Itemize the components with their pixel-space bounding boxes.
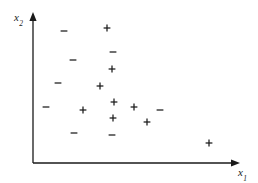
plus-marker (144, 119, 151, 126)
data-markers-group (43, 25, 213, 147)
y-axis-arrowhead-icon (29, 12, 36, 21)
x-axis-label-subscript: 1 (243, 174, 247, 183)
scatter-plot-figure: x2 x1 (0, 0, 258, 183)
plus-marker (131, 104, 138, 111)
plus-marker (80, 107, 87, 114)
plot-canvas (0, 0, 258, 183)
x-axis-label: x1 (238, 167, 247, 181)
plus-marker (104, 25, 111, 32)
plus-marker (97, 83, 104, 90)
plus-marker (110, 115, 117, 122)
plus-marker (109, 66, 116, 73)
y-axis-label: x2 (14, 12, 23, 26)
plus-marker (206, 140, 213, 147)
plus-marker (111, 99, 118, 106)
y-axis-label-subscript: 2 (19, 19, 23, 28)
